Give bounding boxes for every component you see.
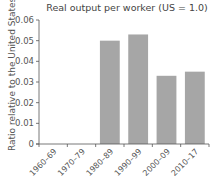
x-tick-label: 1980–89 xyxy=(84,147,115,178)
y-tick-label: 0.01 xyxy=(15,118,34,128)
bar-chart: 00.010.020.030.040.050.061960–691970–791… xyxy=(0,0,214,186)
bar-2000–09 xyxy=(157,76,177,144)
y-tick-label: 0.04 xyxy=(15,56,34,66)
y-tick-label: 0 xyxy=(29,139,34,149)
x-tick-label: 1990–99 xyxy=(113,147,144,178)
bar-1990–99 xyxy=(128,34,148,144)
y-tick-label: 0.05 xyxy=(15,36,34,46)
bar-1980–89 xyxy=(100,41,120,144)
y-tick-label: 0.06 xyxy=(15,15,34,25)
x-tick-label: 1970–79 xyxy=(56,147,87,178)
x-tick-label: 2010–17 xyxy=(169,147,200,178)
y-tick-label: 0.03 xyxy=(15,77,34,87)
y-tick-label: 0.02 xyxy=(15,98,34,108)
bar-2010–17 xyxy=(185,72,205,144)
x-tick-label: 1960–69 xyxy=(28,147,59,178)
x-tick-label: 2000–09 xyxy=(141,147,172,178)
